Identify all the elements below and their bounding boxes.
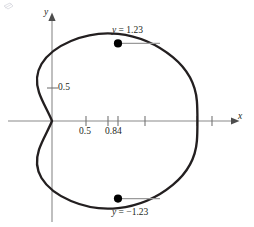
x-axis-label: x xyxy=(238,112,242,122)
label-tangent-top: y = 1.23 xyxy=(112,26,143,36)
label-tangent-bottom: y = −1.23 xyxy=(112,208,148,218)
label-tangent-top-value: = 1.23 xyxy=(116,25,143,35)
scan-artifact xyxy=(4,3,13,9)
y-tick-label-half: 0.5 xyxy=(58,83,70,93)
point-max-y xyxy=(114,39,122,47)
x-tick-label-084: 0.84 xyxy=(105,127,122,137)
point-min-y xyxy=(114,195,122,203)
cardioid-figure: y = 1.23 y = −1.23 0.5 0.5 0.84 x y xyxy=(0,0,254,227)
label-tangent-bottom-value: = −1.23 xyxy=(116,207,148,217)
y-axis-arrowhead xyxy=(48,13,55,22)
y-axis-label: y xyxy=(44,8,48,18)
x-tick-label-half: 0.5 xyxy=(79,127,91,137)
